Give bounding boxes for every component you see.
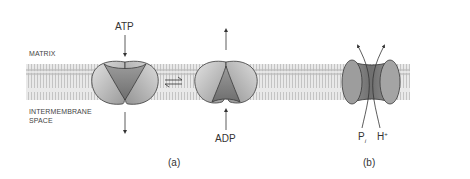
phosphate-label: Pi [358, 131, 366, 144]
proton-superscript: + [384, 131, 388, 137]
carrier-protein-intermembrane-facing [195, 61, 257, 103]
mitochondrial-transport-diagram [0, 0, 470, 179]
carrier-protein-matrix-facing [92, 61, 158, 104]
intermembrane-label-line1: INTERMEMBRANE [29, 108, 92, 115]
atp-label: ATP [115, 21, 134, 32]
panel-a-caption: (a) [168, 157, 180, 168]
phosphate-symbol: P [358, 131, 365, 142]
matrix-label: MATRIX [29, 50, 56, 57]
intermembrane-label-line2: SPACE [29, 117, 53, 124]
phosphate-symporter-channel [342, 60, 400, 104]
proton-label: H+ [377, 131, 388, 142]
adp-label: ADP [215, 133, 236, 144]
phosphate-subscript: i [365, 138, 366, 144]
panel-b-caption: (b) [363, 157, 375, 168]
